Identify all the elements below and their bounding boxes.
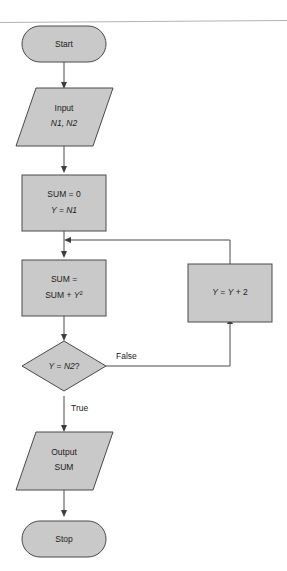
stop-label: Stop [55, 534, 73, 544]
node-decision[interactable]: Y = N2? [22, 341, 106, 391]
node-input[interactable]: Input N1, N2 [16, 88, 113, 146]
increment-label: Y = Y + 2 [212, 287, 248, 297]
arrow-head-decision-output [61, 425, 67, 432]
node-output[interactable]: Output SUM [16, 432, 113, 490]
edge-label-true: True [71, 403, 88, 413]
arrow-head-input-init [61, 166, 67, 173]
accumulate-process-shape [22, 260, 106, 316]
increment-equals: = [218, 287, 228, 297]
flowchart-diagram: Start Input N1, N2 SUM = 0 Y = N1 SUM = … [0, 0, 287, 571]
node-start[interactable]: Start [22, 26, 106, 62]
arrow-head-init-accumulate [61, 251, 67, 258]
input-vars: N1, N2 [51, 118, 78, 128]
init-var-n1: N1 [66, 205, 77, 215]
input-label-line1: Input [55, 103, 75, 113]
decision-var-n2: N2 [64, 361, 75, 371]
init-label-line1: SUM = 0 [47, 189, 81, 199]
page-divider-rule [0, 21, 287, 23]
arrow-head-loopback-merge [64, 237, 71, 243]
decision-question: ? [75, 361, 80, 371]
output-label-line2: SUM [55, 462, 74, 472]
increment-addend: + 2 [233, 287, 248, 297]
decision-label: Y = N2? [49, 361, 80, 371]
decision-equals: = [54, 361, 64, 371]
flowchart-page: Start Input N1, N2 SUM = 0 Y = N1 SUM = … [0, 0, 287, 571]
input-label-line2: N1, N2 [51, 118, 78, 128]
arrow-head-output-stop [61, 510, 67, 517]
node-stop[interactable]: Stop [22, 521, 106, 557]
arrow-head-accumulate-decision [61, 334, 67, 341]
output-label-line1: Output [51, 447, 77, 457]
accumulate-prefix: SUM + [45, 290, 74, 300]
input-parallelogram-shape [16, 88, 113, 146]
output-parallelogram-shape [16, 432, 113, 490]
init-process-shape [22, 175, 106, 231]
edge-label-false: False [116, 351, 137, 361]
node-init[interactable]: SUM = 0 Y = N1 [22, 175, 106, 231]
node-increment[interactable]: Y = Y + 2 [188, 264, 272, 322]
init-equals: = [57, 205, 67, 215]
init-label-line2: Y = N1 [51, 205, 77, 215]
node-accumulate[interactable]: SUM = SUM + Y2 [22, 260, 106, 316]
start-label: Start [55, 39, 74, 49]
accumulate-label-line1: SUM = [51, 274, 77, 284]
accumulate-label-line2: SUM + Y2 [45, 290, 83, 301]
